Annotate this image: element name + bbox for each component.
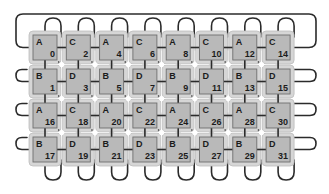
cell-index-label: 2 [83,49,88,59]
cell-index-label: 10 [211,49,221,59]
processor-cell: C26 [200,103,224,128]
junction-dot [124,95,126,97]
cell-index-label: 17 [45,151,55,161]
processor-cell: D3 [66,69,90,94]
cell-type-label: A [103,37,110,47]
cell-index-label: 21 [112,151,122,161]
processor-cell: B9 [166,69,190,94]
cell-type-label: A [169,37,176,47]
cell-type-label: C [269,37,276,47]
cell-index-label: 13 [245,83,255,93]
junction-dot [58,61,60,63]
junction-dot [191,95,193,97]
cell-type-label: A [36,37,43,47]
cell-index-label: 1 [50,83,55,93]
cell-type-label: D [269,139,276,149]
junction-dot [58,129,60,131]
cell-type-label: C [69,105,76,115]
processor-cell: A8 [166,35,190,60]
cell-type-label: C [136,105,143,115]
cell-type-label: B [169,71,176,81]
cell-type-label: D [136,139,143,149]
junction-dot [191,61,193,63]
cell-index-label: 0 [50,49,55,59]
processor-cell: A24 [166,103,190,128]
processor-cell: C6 [133,35,157,60]
cell-index-label: 5 [117,83,122,93]
junction-dot [91,61,93,63]
cell-type-label: D [203,71,210,81]
cell-type-label: A [169,105,176,115]
cell-index-label: 25 [178,151,188,161]
cell-index-label: 4 [117,49,122,59]
cell-index-label: 20 [112,117,122,127]
junction-dot [91,95,93,97]
cell-index-label: 26 [211,117,221,127]
junction-dot [258,95,260,97]
processor-cell: D15 [266,69,290,94]
cell-index-label: 18 [78,117,88,127]
cell-type-label: B [103,139,110,149]
processor-cell: D23 [133,137,157,162]
processor-cell: A16 [33,103,57,128]
cell-type-label: C [203,37,210,47]
cell-type-label: C [269,105,276,115]
cell-index-label: 8 [183,49,188,59]
processor-cell: A20 [100,103,124,128]
processor-cell: C14 [266,35,290,60]
processor-cell: C10 [200,35,224,60]
cell-index-label: 22 [145,117,155,127]
junction-dot [124,61,126,63]
junction-dot [158,129,160,131]
processor-cell: C22 [133,103,157,128]
cell-index-label: 31 [278,151,288,161]
cell-type-label: B [36,71,43,81]
cell-index-label: 15 [278,83,288,93]
processor-cell: C2 [66,35,90,60]
cell-type-label: B [169,139,176,149]
cell-index-label: 12 [245,49,255,59]
cell-type-label: C [69,37,76,47]
cell-type-label: B [236,71,243,81]
processor-cell: B1 [33,69,57,94]
cell-type-label: D [136,71,143,81]
processor-cell: B5 [100,69,124,94]
junction-dot [224,129,226,131]
cell-index-label: 23 [145,151,155,161]
junction-dot [258,61,260,63]
cell-type-label: B [236,139,243,149]
junction-dot [58,95,60,97]
cell-index-label: 7 [150,83,155,93]
cell-index-label: 24 [178,117,188,127]
cell-index-label: 27 [211,151,221,161]
processor-cell: D19 [66,137,90,162]
cell-type-label: D [269,71,276,81]
processor-cell: B21 [100,137,124,162]
cell-index-label: 28 [245,117,255,127]
cell-index-label: 29 [245,151,255,161]
cell-type-label: C [136,37,143,47]
cell-index-label: 6 [150,49,155,59]
processor-cell: D11 [200,69,224,94]
cell-index-label: 16 [45,117,55,127]
processor-cell: A12 [233,35,257,60]
processor-cell: B17 [33,137,57,162]
junction-dot [258,129,260,131]
cell-index-label: 30 [278,117,288,127]
cell-index-label: 19 [78,151,88,161]
cell-index-label: 14 [278,49,288,59]
processor-cell: B25 [166,137,190,162]
processor-cell: D27 [200,137,224,162]
processor-cell: C30 [266,103,290,128]
junction-dot [191,129,193,131]
cell-type-label: B [103,71,110,81]
junction-dot [124,129,126,131]
cell-type-label: A [103,105,110,115]
processor-cell: C18 [66,103,90,128]
cell-index-label: 3 [83,83,88,93]
processor-cell: A4 [100,35,124,60]
junction-dot [158,61,160,63]
cell-type-label: B [36,139,43,149]
cell-type-label: A [236,37,243,47]
cell-type-label: D [69,139,76,149]
